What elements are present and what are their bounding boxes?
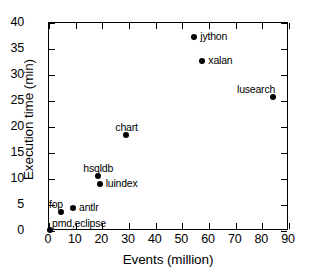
y-tick-right-5 xyxy=(281,205,287,206)
x-tick-50 xyxy=(182,223,183,229)
x-tick-90 xyxy=(289,223,290,229)
x-tick-label-60: 60 xyxy=(193,233,223,245)
data-point-label-antlr: antlr xyxy=(79,202,98,212)
x-tick-label-40: 40 xyxy=(140,233,170,245)
y-tick-20 xyxy=(49,127,55,128)
y-tick-right-0 xyxy=(281,231,287,232)
data-point-label-pmd-eclipse: pmd,eclipse xyxy=(52,218,106,228)
x-tick-top-0 xyxy=(49,23,50,29)
y-tick-label-40: 40 xyxy=(0,16,24,28)
data-point-label-luindex: luindex xyxy=(106,178,138,188)
x-tick-label-80: 80 xyxy=(246,233,276,245)
x-tick-label-50: 50 xyxy=(166,233,196,245)
x-tick-top-10 xyxy=(76,23,77,29)
x-tick-top-70 xyxy=(236,23,237,29)
y-tick-35 xyxy=(49,49,55,50)
y-axis-title: Execution time (min) xyxy=(21,30,36,210)
y-tick-30 xyxy=(49,75,55,76)
x-tick-label-0: 0 xyxy=(33,233,63,245)
x-tick-40 xyxy=(156,223,157,229)
x-tick-label-90: 90 xyxy=(273,233,303,245)
data-point-antlr xyxy=(70,205,76,211)
plot-area: pmd,eclipsefopantlrhsqldbluindexchartjyt… xyxy=(48,22,288,230)
x-tick-top-40 xyxy=(156,23,157,29)
y-tick-right-15 xyxy=(281,153,287,154)
y-tick-right-25 xyxy=(281,101,287,102)
y-tick-label-0: 0 xyxy=(0,224,24,236)
x-tick-label-20: 20 xyxy=(86,233,116,245)
x-tick-top-30 xyxy=(129,23,130,29)
x-tick-label-70: 70 xyxy=(220,233,250,245)
x-tick-top-80 xyxy=(262,23,263,29)
data-point-luindex xyxy=(97,181,103,187)
x-tick-label-30: 30 xyxy=(113,233,143,245)
data-point-jython xyxy=(191,34,197,40)
y-tick-right-40 xyxy=(281,23,287,24)
x-tick-60 xyxy=(209,223,210,229)
y-tick-right-20 xyxy=(281,127,287,128)
x-tick-top-20 xyxy=(102,23,103,29)
y-tick-right-35 xyxy=(281,49,287,50)
data-point-label-chart: chart xyxy=(115,122,137,132)
data-point-label-jython: jython xyxy=(200,31,227,41)
x-tick-label-10: 10 xyxy=(60,233,90,245)
x-tick-30 xyxy=(129,223,130,229)
y-tick-right-10 xyxy=(281,179,287,180)
data-point-label-lusearch: lusearch xyxy=(237,84,275,94)
y-tick-10 xyxy=(49,179,55,180)
x-tick-top-50 xyxy=(182,23,183,29)
x-tick-80 xyxy=(262,223,263,229)
data-point-hsqldb xyxy=(95,173,101,179)
data-point-label-xalan: xalan xyxy=(208,55,232,65)
data-point-xalan xyxy=(199,58,205,64)
y-tick-25 xyxy=(49,101,55,102)
x-tick-top-60 xyxy=(209,23,210,29)
data-point-label-fop: fop xyxy=(49,199,63,209)
x-tick-top-90 xyxy=(289,23,290,29)
data-point-label-hsqldb: hsqldb xyxy=(83,163,113,173)
y-tick-15 xyxy=(49,153,55,154)
x-axis-title: Events (million) xyxy=(48,252,288,267)
x-tick-70 xyxy=(236,223,237,229)
scatter-plot-figure: 0510152025303540 0102030405060708090 pmd… xyxy=(0,0,317,278)
y-tick-right-30 xyxy=(281,75,287,76)
data-point-lusearch xyxy=(270,94,276,100)
data-point-fop xyxy=(58,209,64,215)
